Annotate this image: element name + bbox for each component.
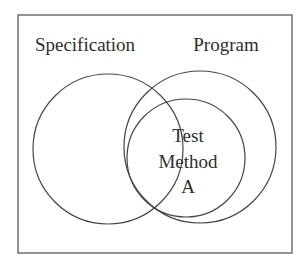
program-circle bbox=[124, 71, 276, 223]
test-method-a-label-line-1: Test bbox=[172, 125, 204, 146]
test-method-a-label-line-2: Method bbox=[158, 151, 218, 172]
venn-diagram: Specification Program Test Method A bbox=[0, 0, 306, 265]
specification-label: Specification bbox=[35, 34, 136, 55]
specification-circle bbox=[33, 74, 183, 224]
test-method-a-label-line-3: A bbox=[181, 176, 195, 197]
program-label: Program bbox=[193, 34, 259, 55]
